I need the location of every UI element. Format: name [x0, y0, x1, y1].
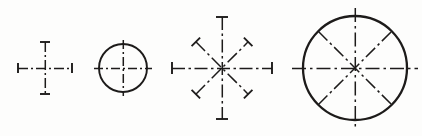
figure-large-circle [292, 8, 418, 128]
figure-center-cross [18, 42, 72, 94]
centerline-figures-svg [0, 0, 422, 136]
figure-sheet [0, 0, 422, 136]
figure-small-circle [94, 40, 152, 96]
figure-eight-spoke-star [172, 17, 272, 119]
